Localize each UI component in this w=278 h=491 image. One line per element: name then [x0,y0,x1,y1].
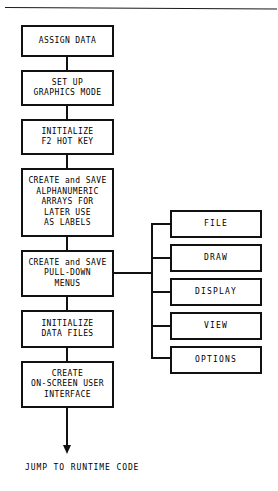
process-box-label: ASSIGN DATA [39,36,96,47]
connector-hotkey-to-arrays [66,155,68,168]
page-top-rule [5,7,277,10]
menu-box-file[interactable]: FILE [170,210,262,238]
connector-branch-file [151,223,172,225]
process-box-label: SET UP GRAPHICS MODE [34,78,102,99]
process-box-create-interface[interactable]: CREATE ON-SCREEN USER INTERFACE [21,361,114,408]
process-box-set-up-graphics[interactable]: SET UP GRAPHICS MODE [21,70,114,106]
terminator-label: JUMP TO RUNTIME CODE [25,463,139,473]
menu-box-label: FILE [204,219,228,229]
menu-box-display[interactable]: DISPLAY [170,278,262,306]
process-box-initialize-files[interactable]: INITIALIZE DATA FILES [21,310,114,348]
connector-interface-to-terminator [66,408,68,447]
connector-menus-to-files [66,297,68,310]
connector-menus-stem [114,272,152,274]
process-box-label: CREATE and SAVE PULL-DOWN MENUS [28,258,106,290]
connector-assign-to-graphics [66,57,68,70]
menu-box-label: VIEW [204,321,228,331]
process-box-label: INITIALIZE F2 HOT KEY [41,127,93,148]
connector-branch-display [151,291,172,293]
flowchart-canvas: ASSIGN DATA SET UP GRAPHICS MODE INITIAL… [0,0,278,491]
process-box-label: CREATE ON-SCREEN USER INTERFACE [31,369,104,401]
connector-arrays-to-menus [66,237,68,250]
connector-branch-view [151,325,172,327]
menu-box-options[interactable]: OPTIONS [170,346,262,374]
process-box-initialize-hotkey[interactable]: INITIALIZE F2 HOT KEY [21,119,114,155]
connector-graphics-to-hotkey [66,106,68,119]
connector-branch-draw [151,257,172,259]
menu-box-label: OPTIONS [195,355,237,365]
arrow-down-icon [63,445,71,454]
process-box-create-menus[interactable]: CREATE and SAVE PULL-DOWN MENUS [21,250,114,297]
menu-box-label: DRAW [204,253,228,263]
process-box-create-arrays[interactable]: CREATE and SAVE ALPHANUMERIC ARRAYS FOR … [21,168,114,237]
menu-box-label: DISPLAY [195,287,237,297]
connector-branch-options [151,357,172,359]
process-box-assign-data[interactable]: ASSIGN DATA [21,25,114,57]
process-box-label: CREATE and SAVE ALPHANUMERIC ARRAYS FOR … [28,176,106,229]
menu-box-draw[interactable]: DRAW [170,244,262,272]
menu-box-view[interactable]: VIEW [170,312,262,340]
process-box-label: INITIALIZE DATA FILES [41,319,93,340]
connector-files-to-interface [66,348,68,361]
